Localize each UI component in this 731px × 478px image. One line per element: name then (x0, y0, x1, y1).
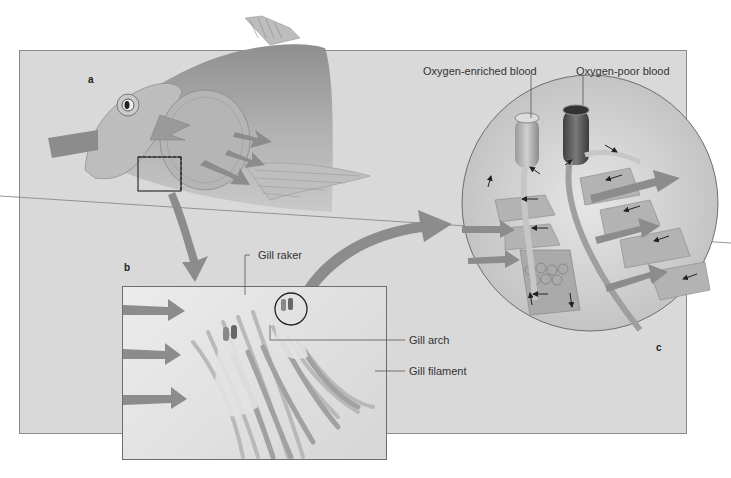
panel-letter-c: c (656, 342, 662, 353)
label-gill-raker: Gill raker (258, 249, 302, 261)
label-gill-filament: Gill filament (409, 365, 466, 377)
panel-letter-a: a (88, 74, 94, 85)
label-oxygen-poor-blood: Oxygen-poor blood (576, 65, 670, 77)
panel-letter-b: b (124, 262, 130, 273)
label-oxygen-enriched-blood: Oxygen-enriched blood (423, 65, 537, 77)
label-gill-arch: Gill arch (409, 334, 449, 346)
